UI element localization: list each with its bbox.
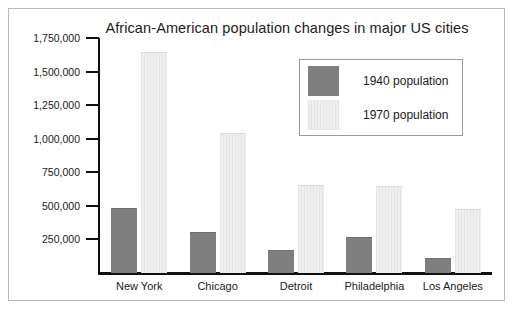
bar-new-york-1940 — [111, 208, 137, 273]
bar-chicago-1970 — [220, 133, 246, 273]
y-axis-tick — [86, 171, 99, 173]
bar-philadelphia-1940 — [346, 237, 372, 273]
x-axis-label-detroit: Detroit — [280, 280, 312, 292]
chart-title: African-American population changes in m… — [92, 20, 482, 36]
legend-swatch-1970 — [308, 100, 339, 130]
y-axis-tick — [86, 71, 99, 73]
y-axis-tick — [86, 238, 99, 240]
legend-item-1970[interactable]: 1970 population — [308, 100, 458, 130]
y-axis-tick — [86, 37, 99, 39]
bar-los-angeles-1940 — [425, 258, 451, 273]
legend-swatch-1940 — [308, 66, 339, 96]
y-axis-tick-label: 250,000 — [14, 233, 80, 245]
y-axis-tick — [86, 205, 99, 207]
bar-detroit-1940 — [268, 250, 294, 273]
y-axis-tick-label: 1,500,000 — [14, 66, 80, 78]
bar-chicago-1940 — [190, 232, 216, 273]
y-axis-tick-label: 1,750,000 — [14, 32, 80, 44]
legend-item-1940[interactable]: 1940 population — [308, 66, 458, 96]
bar-philadelphia-1970 — [376, 186, 402, 273]
x-axis-label-new-york: New York — [116, 280, 162, 292]
legend-label-1970: 1970 population — [363, 108, 448, 122]
y-axis-tick-label: 750,000 — [14, 166, 80, 178]
x-axis-label-philadelphia: Philadelphia — [344, 280, 404, 292]
y-axis-tick-label: 1,250,000 — [14, 99, 80, 111]
y-axis-tick — [86, 104, 99, 106]
y-axis-tick-label: 1,000,000 — [14, 133, 80, 145]
legend-label-1940: 1940 population — [363, 74, 448, 88]
bar-chart: African-American population changes in m… — [0, 0, 519, 317]
y-axis-tick-label: 500,000 — [14, 200, 80, 212]
y-axis-tick-labels: 250,000500,000750,0001,000,0001,250,0001… — [14, 0, 80, 317]
x-axis-label-los-angeles: Los Angeles — [423, 280, 483, 292]
bar-los-angeles-1970 — [455, 209, 481, 273]
bar-new-york-1970 — [141, 52, 167, 273]
bar-detroit-1970 — [298, 185, 324, 273]
x-axis-label-chicago: Chicago — [197, 280, 237, 292]
chart-legend: 1940 population 1970 population — [299, 59, 463, 136]
y-axis-tick — [86, 138, 99, 140]
